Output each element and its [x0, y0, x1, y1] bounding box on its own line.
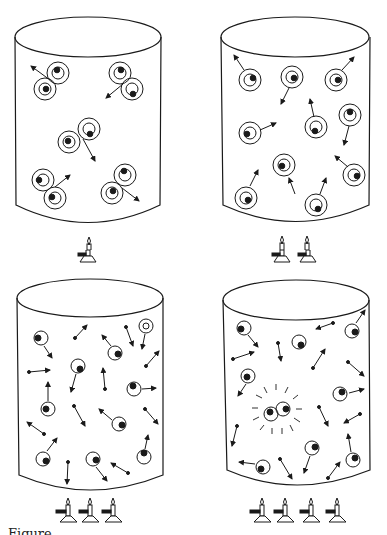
atoms-and-electrons: [34, 319, 156, 481]
cylinder-4-diagram: [194, 250, 387, 500]
bunsen-burner-icon: [272, 250, 316, 262]
atoms: [234, 55, 365, 216]
burners-row-3: [50, 495, 130, 525]
bunsen-burner-icon: [280, 236, 309, 250]
bunsen-burners-4-icon: [248, 495, 348, 525]
bunsen-burner-icon: [78, 250, 96, 262]
panel-3-partial-ionization: [0, 250, 194, 500]
ions: [237, 310, 365, 474]
panel-2-dissociated-atoms: [194, 0, 387, 250]
figure-caption: Figure: [8, 527, 387, 535]
cylinder-1-diagram: [0, 0, 194, 250]
panel-4-plasma: [194, 250, 387, 500]
cylinder-2-diagram: [194, 0, 387, 250]
bunsen-burner-icon: [87, 237, 91, 250]
collision-flash: [252, 384, 302, 434]
burners-row-4: [248, 495, 348, 525]
cylinder-3-diagram: [0, 250, 194, 500]
bunsen-burners-3-icon: [50, 495, 130, 525]
panel-1-diatomic-gas: [0, 0, 194, 250]
caption-text: Figure: [8, 527, 387, 535]
diatomic-molecules: [31, 62, 143, 209]
